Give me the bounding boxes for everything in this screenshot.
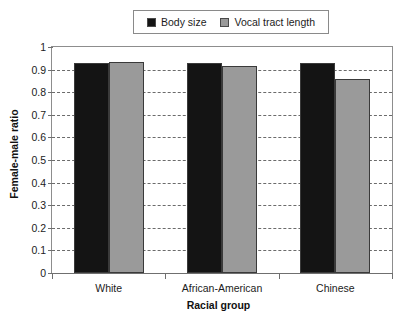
bar [222,66,257,273]
y-tick-label: 0.6 [31,131,46,143]
y-tick-label: 0.9 [31,64,46,76]
y-tick-label: 0.8 [31,86,46,98]
plot-area: 00.10.20.30.40.50.60.70.80.91WhiteAfrica… [51,46,393,274]
bar [187,63,222,273]
y-tick-label: 0.2 [31,222,46,234]
y-tick-mark [48,160,53,161]
y-tick-label: 0.1 [31,244,46,256]
legend-swatch-vocal-tract-length [220,18,229,27]
y-tick-label: 0.3 [31,199,46,211]
y-tick-mark [48,137,53,138]
y-tick-label: 0 [40,267,46,279]
x-tick-label: White [95,282,122,294]
y-tick-label: 0.4 [31,177,46,189]
bar [109,62,144,273]
x-axis-title: Racial group [46,299,391,311]
legend-swatch-body-size [147,18,156,27]
bar [74,63,109,273]
y-axis-title: Female-male ratio [8,79,20,229]
y-tick-mark [48,92,53,93]
y-tick-mark [48,115,53,116]
legend-entry-body-size: Body size [147,17,207,28]
y-tick-mark [48,70,53,71]
y-tick-mark [48,47,53,48]
y-tick-mark [48,250,53,251]
x-tick-label: Chinese [316,282,355,294]
y-tick-label: 1 [40,41,46,53]
legend-label-body-size: Body size [161,17,207,28]
x-tick-mark [52,273,53,279]
chart-figure: Body size Vocal tract length Female-male… [0,0,416,319]
y-tick-mark [48,228,53,229]
y-tick-mark [48,183,53,184]
bar [300,63,335,273]
y-tick-label: 0.5 [31,154,46,166]
y-tick-label: 0.7 [31,109,46,121]
bar [335,79,370,273]
x-tick-mark [165,273,166,279]
x-tick-mark [392,273,393,279]
y-tick-mark [48,205,53,206]
x-tick-mark [279,273,280,279]
x-tick-label: African-American [182,282,263,294]
chart-legend: Body size Vocal tract length [133,10,329,34]
legend-entry-vocal-tract-length: Vocal tract length [220,17,315,28]
legend-label-vocal-tract-length: Vocal tract length [234,17,315,28]
